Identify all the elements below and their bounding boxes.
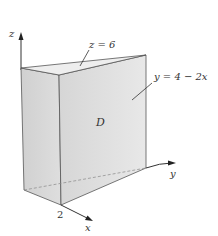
region-label: D: [95, 116, 105, 129]
x-tick-label: 2: [57, 209, 63, 220]
z-axis-label: z: [8, 28, 15, 39]
x-axis: [61, 205, 89, 219]
x-axis-arrow-icon: [85, 216, 93, 222]
top-plane-label: z = 6: [88, 39, 116, 50]
y-axis-arrow-icon: [168, 161, 176, 166]
slant-plane-label: y = 4 − 2x: [153, 71, 208, 82]
y-axis-label: y: [169, 168, 176, 179]
solid-region-diagram: z y x 2 z = 6 y = 4 − 2x D: [0, 0, 218, 236]
z-axis-arrow-icon: [19, 32, 24, 40]
x-axis-label: x: [85, 222, 91, 233]
slant-face: [59, 55, 146, 205]
